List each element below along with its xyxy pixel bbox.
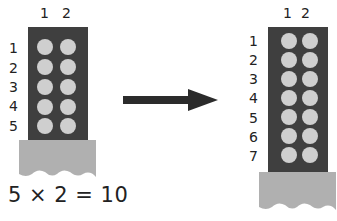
right-array-board [268,27,328,172]
left-array-graphic [0,0,110,185]
arrow-right-icon [120,88,220,116]
left-array-board [28,27,88,140]
right-array-graphic [230,0,337,221]
equation: 5 × 2 = 10 [8,183,128,207]
left-base [19,140,96,177]
right-base [259,172,336,210]
